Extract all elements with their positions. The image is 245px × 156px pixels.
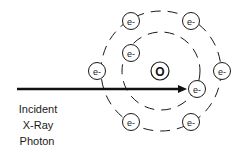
nucleus: O <box>151 62 169 80</box>
electron-label: e- <box>193 85 201 95</box>
electron: e- <box>183 13 200 30</box>
electron: e- <box>214 63 231 80</box>
electron: e- <box>123 114 140 131</box>
electron-label: e- <box>127 49 135 59</box>
caption-line-3: Photon <box>20 135 55 147</box>
nucleus-label: O <box>155 65 164 79</box>
electron-label: e- <box>127 118 135 128</box>
atom-diagram: O e- e- e- e- e- e- e- e- Incident X-Ray… <box>0 0 245 156</box>
caption-line-1: Incident <box>19 103 58 115</box>
electron: e- <box>123 45 140 62</box>
electron-label: e- <box>187 118 195 128</box>
electron: e- <box>123 13 140 30</box>
electron-label: e- <box>187 17 195 27</box>
electron-label: e- <box>127 17 135 27</box>
electron-label: e- <box>218 67 226 77</box>
electron: e- <box>89 63 106 80</box>
incident-photon-arrow <box>17 85 187 93</box>
photon-caption: Incident X-Ray Photon <box>19 103 58 147</box>
caption-line-2: X-Ray <box>23 119 54 131</box>
electron: e- <box>189 81 206 98</box>
electron-label: e- <box>93 67 101 77</box>
electron: e- <box>183 114 200 131</box>
